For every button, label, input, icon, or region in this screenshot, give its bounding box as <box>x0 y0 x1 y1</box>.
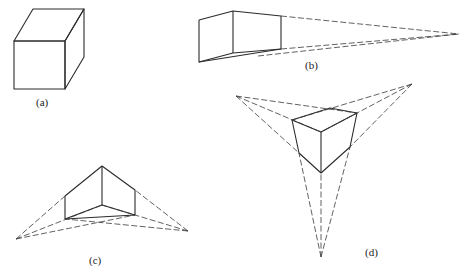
box-b-bottom-edge <box>199 49 281 62</box>
panel-b-box <box>199 11 281 62</box>
box-d-outline <box>292 113 357 173</box>
panel-a-label: (a) <box>36 96 49 109</box>
panel-d-label: (d) <box>365 246 378 259</box>
cube-a-front-face <box>14 41 65 89</box>
cube-a-top-face <box>14 9 84 41</box>
panel-c-label: (c) <box>89 254 102 267</box>
panel-a-cube <box>14 9 84 89</box>
panel-c-box <box>65 166 135 219</box>
box-c-outline <box>65 166 135 219</box>
perspective-diagram: (a) (b) (c) <box>0 0 468 273</box>
box-b-outline <box>199 11 281 62</box>
cube-a-side-face <box>65 9 84 89</box>
panel-b-label: (b) <box>305 59 318 72</box>
panel-b-construction-lines <box>258 16 459 56</box>
